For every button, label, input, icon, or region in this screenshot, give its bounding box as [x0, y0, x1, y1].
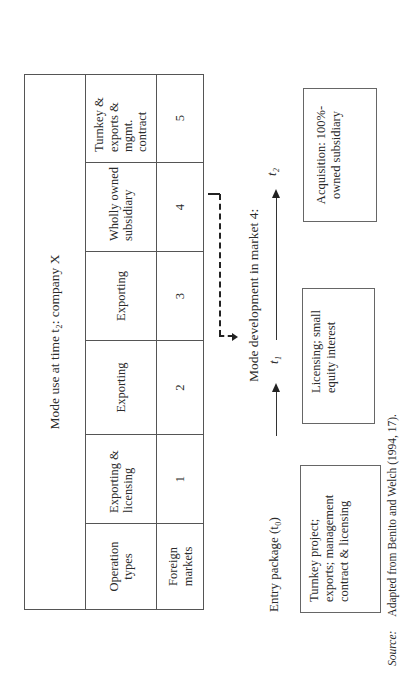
operation-cell: Exporting & licensing	[86, 435, 156, 524]
t2-mode-box: Acquisition: 100%-owned subsidiary	[303, 88, 377, 222]
market-cell: 1	[157, 435, 204, 524]
t1-mode-box: Licensing; small equity interest	[302, 288, 375, 424]
dashed-arrow-icon	[232, 333, 238, 341]
arrow-right-icon	[272, 189, 280, 198]
dashed-connector-down	[219, 335, 233, 337]
market-cell: 5	[157, 74, 204, 163]
mode-development-heading: Mode development in market 4:	[246, 209, 262, 382]
operation-cell: Exporting	[86, 341, 156, 435]
market-cell: 4	[157, 163, 204, 252]
source-note: Source:Adapted from Benito and Welch (19…	[386, 414, 398, 666]
operation-types-row: Operation types Exporting & licensing Ex…	[86, 74, 156, 610]
market-cell: 2	[157, 341, 204, 435]
timeline-segment-2	[276, 194, 277, 340]
row-header-operation-types: Operation types	[86, 524, 156, 610]
row-header-foreign-markets: Foreign markets	[157, 524, 204, 610]
source-label: Source:	[386, 631, 398, 666]
entry-package-box: Turnkey project; exports; management con…	[300, 465, 381, 613]
entry-package-label: Entry package (t₀)	[266, 517, 282, 612]
arrow-right-icon	[272, 383, 280, 392]
operation-cell: Exporting	[86, 252, 156, 341]
t2-label: t₂	[264, 168, 280, 176]
table-title: Mode use at time t₂: company X	[25, 75, 85, 609]
timeline-segment-1	[276, 388, 277, 436]
operation-cell: Wholly owned subsidiary	[86, 163, 156, 252]
t1-label: t₁	[266, 356, 282, 364]
mode-use-table: Mode use at time t₂: company X Operation…	[24, 74, 204, 610]
rotated-page: Mode use at time t₂: company X Operation…	[0, 0, 410, 682]
operation-cell: Turnkey & exports & mgmt. contract	[86, 74, 156, 163]
market-cell: 3	[157, 252, 204, 341]
source-text: Adapted from Benito and Welch (1994, 17)…	[386, 414, 398, 617]
dashed-connector-horizontal	[219, 194, 221, 336]
foreign-markets-row: Foreign markets 1 2 3 4 5	[156, 74, 204, 610]
